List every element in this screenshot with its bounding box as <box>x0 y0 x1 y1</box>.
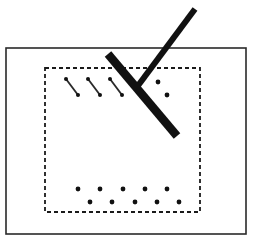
tick-mark-end-dot <box>64 77 68 81</box>
figure-background <box>0 0 259 243</box>
tick-mark-end-dot <box>120 93 124 97</box>
tick-mark-end-dot <box>76 93 80 97</box>
tick-mark-end-dot <box>108 77 112 81</box>
tick-mark-end-dot <box>98 93 102 97</box>
upper-dot-row-dot <box>165 187 170 192</box>
upper-dot-row-dot <box>121 187 126 192</box>
upper-dot-row-dot <box>143 187 148 192</box>
lower-dot-row-dot <box>110 200 115 205</box>
lower-dot-row-dot <box>155 200 160 205</box>
figure-canvas <box>0 0 259 243</box>
lower-dot-row-dot <box>88 200 93 205</box>
lower-dot-row-dot <box>177 200 182 205</box>
upper-dot-row-dot <box>98 187 103 192</box>
upper-dot-row-dot <box>76 187 81 192</box>
side-debris-dot <box>165 93 170 98</box>
tick-mark-end-dot <box>86 77 90 81</box>
side-debris-dot <box>156 80 161 85</box>
diagram-svg <box>0 0 259 243</box>
lower-dot-row-dot <box>133 200 138 205</box>
